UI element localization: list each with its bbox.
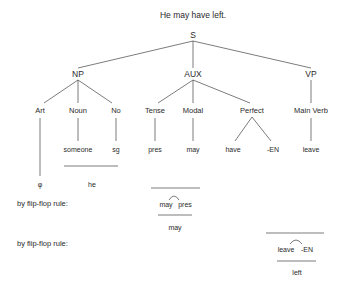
- result-he: he: [88, 181, 96, 188]
- branch-s-vp: [193, 41, 311, 68]
- leaf-someone: someone: [64, 146, 93, 153]
- leaf-may: may: [186, 146, 199, 153]
- rule2-input-en: -EN: [301, 246, 313, 253]
- branch-perfect-have: [235, 117, 252, 141]
- node-s: S: [190, 31, 196, 40]
- node-tense: Tense: [145, 107, 165, 115]
- flip-flop-arc-1: [169, 196, 179, 200]
- leaf-sg: sg: [112, 146, 119, 153]
- leaf-en: -EN: [267, 146, 279, 153]
- node-perfect: Perfect: [240, 107, 264, 115]
- rule1-input-may: may: [159, 201, 172, 208]
- branch-np-art: [44, 80, 78, 103]
- rule-label-1: by flip-flop rule:: [17, 200, 68, 208]
- node-np: NP: [72, 70, 84, 79]
- node-modal: Modal: [183, 107, 203, 115]
- node-aux: AUX: [184, 70, 201, 79]
- tree-branches: [0, 0, 347, 295]
- rule1-output-may: may: [168, 224, 181, 231]
- leaf-leave: leave: [303, 146, 320, 153]
- node-vp: VP: [305, 70, 316, 79]
- node-main-verb: Main Verb: [294, 107, 328, 115]
- rule2-output-left: left: [292, 269, 301, 276]
- node-art: Art: [35, 107, 45, 115]
- branch-aux-tense: [158, 80, 193, 103]
- rule2-input-leave: leave: [278, 246, 295, 253]
- flip-flop-arc-2: [290, 240, 302, 244]
- branch-perfect-en: [252, 117, 271, 141]
- leaf-have: have: [225, 146, 240, 153]
- branch-s-np: [78, 41, 193, 68]
- leaf-pres: pres: [148, 146, 162, 153]
- rule1-input-pres: pres: [178, 201, 192, 208]
- sentence-title: He may have left.: [160, 11, 226, 20]
- node-no: No: [111, 107, 121, 115]
- node-noun: Noun: [69, 107, 87, 115]
- result-phi: φ: [38, 181, 43, 188]
- rule-label-2: by flip-flop rule:: [17, 240, 68, 248]
- branch-aux-perfect: [193, 80, 250, 103]
- branch-np-no: [78, 80, 112, 103]
